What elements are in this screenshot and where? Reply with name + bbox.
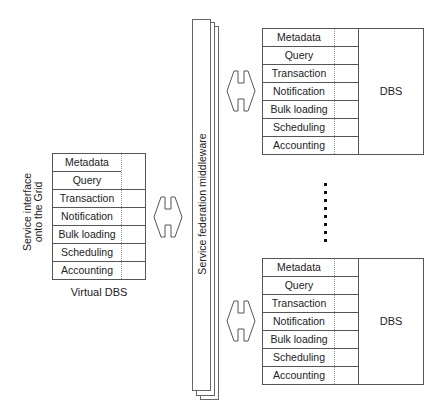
ellipsis-dot bbox=[324, 215, 327, 218]
ellipsis-dot bbox=[324, 239, 327, 242]
service-row-query: Query bbox=[53, 172, 145, 190]
service-row-transaction: Transaction bbox=[263, 65, 359, 83]
service-row-query: Query bbox=[263, 277, 359, 295]
service-row-scheduling: Scheduling bbox=[263, 349, 359, 367]
service-row-notification: Notification bbox=[263, 313, 359, 331]
service-row-notification: Notification bbox=[53, 208, 145, 226]
service-row-bulk-loading: Bulk loading bbox=[53, 226, 145, 244]
service-row-scheduling: Scheduling bbox=[53, 244, 145, 262]
service-row-accounting: Accounting bbox=[263, 137, 359, 155]
double-arrow-icon bbox=[226, 300, 256, 342]
ellipsis-dot bbox=[324, 183, 327, 186]
double-arrow-icon bbox=[153, 196, 183, 238]
dbs-top-table: Metadata Query Transaction Notification … bbox=[262, 28, 424, 155]
service-row-notification: Notification bbox=[263, 83, 359, 101]
dbs-bottom-table: Metadata Query Transaction Notification … bbox=[262, 258, 424, 385]
service-row-metadata: Metadata bbox=[53, 154, 121, 172]
ellipsis-dot bbox=[324, 199, 327, 202]
double-arrow-icon bbox=[226, 70, 256, 112]
service-row-bulk-loading: Bulk loading bbox=[263, 101, 359, 119]
service-row-transaction: Transaction bbox=[53, 190, 145, 208]
service-row-transaction: Transaction bbox=[263, 295, 359, 313]
dbs-bottom-label: DBS bbox=[359, 315, 423, 327]
virtual-dbs-table: Metadata Query Transaction Notification … bbox=[52, 153, 146, 280]
ellipsis-dot bbox=[324, 207, 327, 210]
service-row-bulk-loading: Bulk loading bbox=[263, 331, 359, 349]
service-row-metadata: Metadata bbox=[263, 29, 359, 47]
ellipsis-dot bbox=[324, 231, 327, 234]
virtual-dbs-caption: Virtual DBS bbox=[52, 286, 146, 298]
service-row-metadata: Metadata bbox=[263, 259, 359, 277]
service-row-scheduling: Scheduling bbox=[263, 119, 359, 137]
dbs-top-label: DBS bbox=[359, 85, 423, 97]
middleware-label: Service federation middleware bbox=[196, 104, 208, 304]
ellipsis-dot bbox=[324, 223, 327, 226]
service-interface-label: Service interface onto the Grid bbox=[22, 157, 44, 267]
service-interface-line2: onto the Grid bbox=[33, 157, 44, 267]
service-row-query: Query bbox=[263, 47, 359, 65]
ellipsis-dot bbox=[324, 191, 327, 194]
service-row-accounting: Accounting bbox=[53, 262, 145, 280]
service-row-accounting: Accounting bbox=[263, 367, 359, 385]
